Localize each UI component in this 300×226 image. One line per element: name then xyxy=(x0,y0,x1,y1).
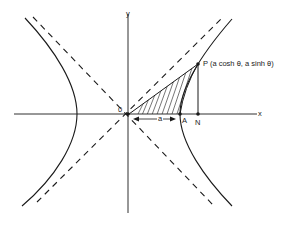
asymptote-negative xyxy=(33,17,213,205)
point-o xyxy=(126,112,130,116)
sector-boundary-OP xyxy=(129,64,198,114)
shaded-sector-OAP xyxy=(135,60,204,120)
hyperbola-left-branch xyxy=(22,18,77,206)
asymptote-positive xyxy=(37,19,221,202)
origin-label: 0 xyxy=(118,106,122,114)
point-n-label: N xyxy=(195,119,200,127)
y-axis-label: y xyxy=(126,10,130,18)
dimension-arrow-OA xyxy=(133,117,176,122)
point-a-label: A xyxy=(182,117,187,125)
sector-boundary-AP xyxy=(180,64,198,114)
point-n xyxy=(196,112,200,116)
point-p xyxy=(196,62,200,66)
hyperbola-diagram xyxy=(0,0,300,226)
point-p-label: P (a cosh θ, a sinh θ) xyxy=(203,60,274,68)
x-axis-label: x xyxy=(258,110,262,118)
distance-a-label: a xyxy=(157,115,163,123)
